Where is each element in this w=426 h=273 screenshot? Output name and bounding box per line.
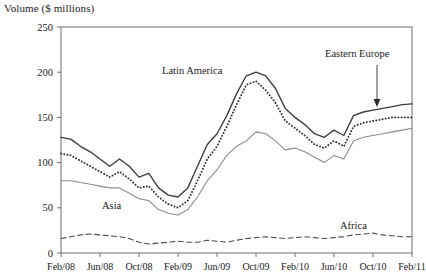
x-axis-tick-label: Jun/10 [321,261,348,272]
series-line-africa [61,233,412,244]
x-axis-tick-label: Feb/11 [398,261,425,272]
series-line-latin-america [61,81,412,208]
y-axis-tick-label: 150 [37,112,53,123]
y-axis-tick-label: 0 [48,248,53,259]
leader-arrowhead [374,99,381,107]
data-series-group [61,72,412,244]
y-axis-tick-label: 250 [37,22,53,33]
y-axis-tick-label: 200 [37,67,53,78]
x-axis-tick-label: Oct/08 [125,261,152,272]
x-axis-tick-label: Feb/09 [164,261,192,272]
y-axis-tick-group: 050100150200250 [37,22,61,259]
chart-plot-area: 050100150200250 Feb/08Jun/08Oct/08Feb/09… [0,0,426,273]
series-label-latin-america: Latin America [162,65,223,76]
x-axis-tick-label: Feb/08 [47,261,75,272]
series-line-eastern-europe [61,72,412,197]
y-axis-tick-label: 50 [43,202,54,213]
x-axis-tick-label: Jun/09 [204,261,231,272]
x-axis-tick-group: Feb/08Jun/08Oct/08Feb/09Jun/09Oct/09Feb/… [47,253,426,272]
series-label-eastern-europe: Eastern Europe [325,48,390,59]
x-axis-tick-label: Jun/08 [87,261,114,272]
x-axis-tick-label: Oct/10 [359,261,386,272]
x-axis-tick-label: Oct/09 [242,261,269,272]
x-axis-tick-label: Feb/10 [281,261,309,272]
series-label-asia: Asia [102,200,122,211]
chart-container: Volume ($ millions) 050100150200250 Feb/… [0,0,426,273]
y-axis-tick-label: 100 [37,157,53,168]
series-label-africa: Africa [340,220,367,231]
